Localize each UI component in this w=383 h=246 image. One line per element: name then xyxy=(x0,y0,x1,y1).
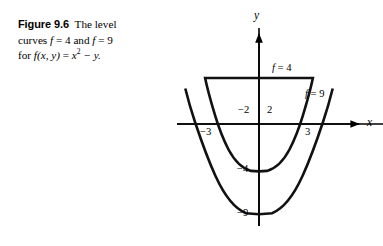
plot-svg xyxy=(168,0,383,246)
caption-line-2: curves f = 4 and f = 9 xyxy=(18,33,160,49)
figure-caption: Figure 9.6 The level curves f = 4 and f … xyxy=(18,17,160,64)
plot-area: x y −3 −2 2 3 −4 −9 f = 4 f = 9 xyxy=(168,0,383,246)
caption-line-1: Figure 9.6 The level xyxy=(18,18,117,30)
caption-text-3-pre: for xyxy=(18,49,34,61)
caption-text-2-pre: curves xyxy=(18,34,50,46)
x-tick-label-3: 3 xyxy=(305,126,310,137)
caption-text-1: The level xyxy=(75,18,117,30)
caption-line-3: for f(x, y) = x2 − y. xyxy=(18,48,160,64)
figure-number: Figure 9.6 xyxy=(18,18,69,30)
y-axis-label: y xyxy=(254,9,259,21)
curve-label-f-equals-9: f = 9 xyxy=(305,88,325,99)
x-axis-label: x xyxy=(367,116,372,128)
caption-eq-1: = 4 and xyxy=(53,34,92,46)
x-tick-label-minus-3: −3 xyxy=(200,126,211,137)
y-tick-label-minus-9: −9 xyxy=(237,207,248,218)
y-tick-label-minus-4: −4 xyxy=(237,163,248,174)
x-tick-label-minus-2: −2 xyxy=(238,104,249,115)
caption-function-notation: f(x, y) xyxy=(34,49,60,61)
figure-container: Figure 9.6 The level curves f = 4 and f … xyxy=(0,0,383,246)
curve-label-f-equals-4: f = 4 xyxy=(272,62,292,73)
caption-eq-2: = 9 xyxy=(95,34,113,46)
curve-label-4-value: = 4 xyxy=(275,62,292,73)
caption-minus-y: − y. xyxy=(81,49,101,61)
x-tick-label-2: 2 xyxy=(267,104,272,115)
caption-eq-3: = xyxy=(60,49,72,61)
curve-label-9-value: = 9 xyxy=(308,88,325,99)
